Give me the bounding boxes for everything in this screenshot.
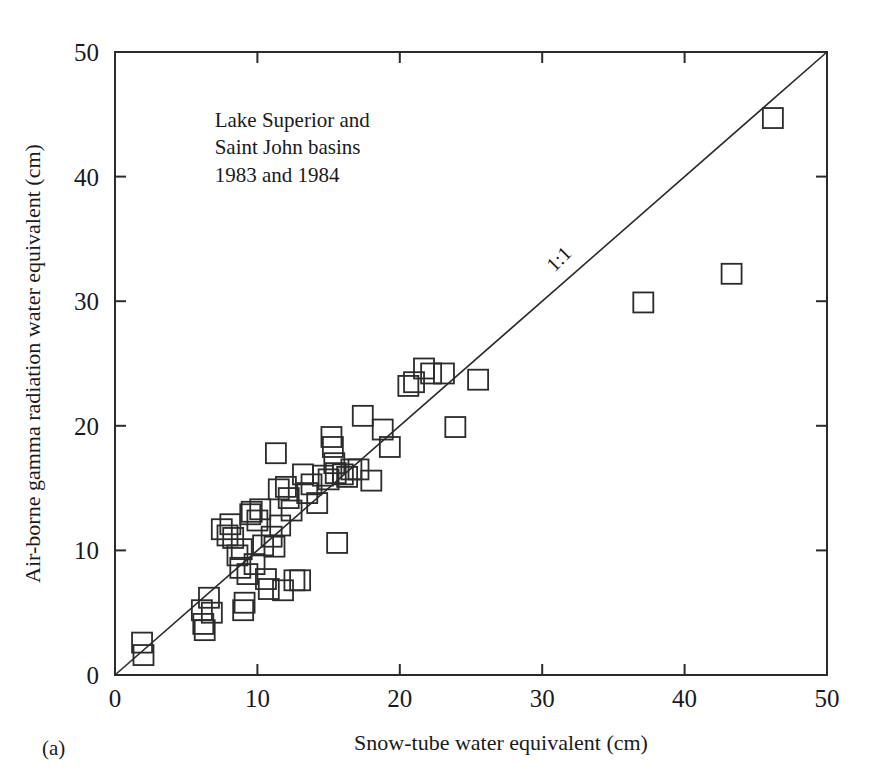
y-tick-label: 40 bbox=[74, 164, 99, 191]
data-point-marker bbox=[232, 539, 252, 559]
x-axis-tick-labels: 01020304050 bbox=[109, 685, 840, 712]
data-point-marker bbox=[133, 645, 153, 665]
data-point-marker bbox=[266, 443, 286, 463]
data-point-marker bbox=[233, 600, 253, 620]
x-tick-label: 0 bbox=[109, 685, 122, 712]
x-tick-label: 10 bbox=[245, 685, 270, 712]
y-tick-label: 20 bbox=[74, 413, 99, 440]
data-point-marker bbox=[327, 533, 347, 553]
data-point-marker bbox=[270, 515, 290, 535]
y-axis-tick-labels: 01020304050 bbox=[74, 39, 99, 689]
data-point-marker bbox=[468, 370, 488, 390]
figure-panel: 01020304050 01020304050 1:1 Lake Superio… bbox=[0, 0, 880, 779]
data-point-marker bbox=[763, 108, 783, 128]
data-point-marker bbox=[722, 264, 742, 284]
data-point-markers bbox=[132, 108, 783, 665]
y-tick-label: 50 bbox=[74, 39, 99, 66]
data-point-marker bbox=[132, 633, 152, 653]
reference-line-label: 1:1 bbox=[542, 242, 576, 276]
panel-label: (a) bbox=[42, 736, 65, 760]
y-tick-label: 0 bbox=[87, 662, 100, 689]
scatter-plot: 01020304050 01020304050 1:1 Lake Superio… bbox=[0, 0, 880, 779]
annotation-line-1: Lake Superior and bbox=[215, 108, 371, 132]
x-tick-label: 50 bbox=[815, 685, 840, 712]
data-point-marker bbox=[212, 519, 232, 539]
data-point-marker bbox=[633, 292, 653, 312]
x-tick-label: 40 bbox=[672, 685, 697, 712]
x-tick-label: 20 bbox=[387, 685, 412, 712]
x-axis-title: Snow-tube water equivalent (cm) bbox=[354, 730, 648, 755]
annotation-line-3: 1983 and 1984 bbox=[215, 163, 340, 187]
x-tick-label: 30 bbox=[530, 685, 555, 712]
data-point-marker bbox=[361, 471, 381, 491]
y-tick-label: 30 bbox=[74, 288, 99, 315]
data-point-marker bbox=[193, 614, 213, 634]
annotation-line-2: Saint John basins bbox=[215, 135, 361, 159]
data-point-marker bbox=[353, 406, 373, 426]
data-point-marker bbox=[445, 417, 465, 437]
data-point-marker bbox=[235, 593, 255, 613]
y-tick-label: 10 bbox=[74, 537, 99, 564]
y-axis-title: Air-borne gamma radiation water equivale… bbox=[20, 144, 45, 583]
